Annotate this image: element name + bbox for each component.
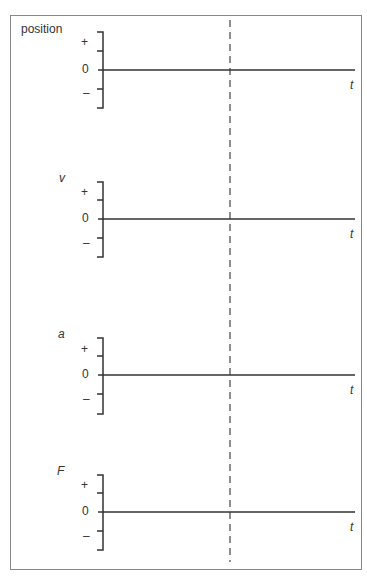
position-axes: [97, 32, 355, 108]
force-zero-label: 0: [82, 504, 89, 518]
diagram-canvas: [0, 0, 367, 580]
force-axes: [97, 475, 355, 550]
position-plus-label: +: [81, 35, 88, 49]
acceleration-minus-label: –: [83, 392, 90, 406]
velocity-time-label: t: [350, 227, 353, 241]
acceleration-time-label: t: [350, 383, 353, 397]
force-plus-label: +: [81, 478, 88, 492]
acceleration-axis-label: a: [58, 327, 65, 341]
velocity-axis-label: v: [59, 171, 65, 185]
position-time-label: t: [350, 78, 353, 92]
acceleration-plus-label: +: [81, 342, 88, 356]
velocity-zero-label: 0: [82, 211, 89, 225]
force-time-label: t: [350, 520, 353, 534]
velocity-plus-label: +: [81, 185, 88, 199]
acceleration-axes: [97, 338, 355, 414]
velocity-axes: [97, 182, 355, 257]
acceleration-zero-label: 0: [82, 367, 89, 381]
position-minus-label: –: [83, 86, 90, 100]
velocity-minus-label: –: [83, 236, 90, 250]
force-axis-label: F: [57, 464, 64, 478]
force-minus-label: –: [83, 529, 90, 543]
position-axis-label: position: [21, 22, 62, 36]
position-zero-label: 0: [82, 62, 89, 76]
frame-border: [11, 16, 362, 570]
